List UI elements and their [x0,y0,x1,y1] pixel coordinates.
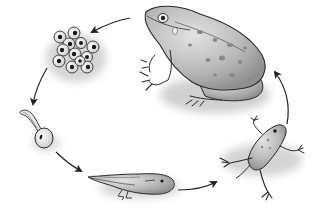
arrow-eggs-to-hatchling [33,68,47,104]
diagram-canvas [0,0,315,212]
adult-frog [140,6,270,113]
arrow-froglet-to-adult [275,72,288,124]
hatchling-tadpole [20,110,60,151]
tadpole-with-legs [88,174,180,200]
frog-eggs [46,27,106,82]
frog-life-cycle-diagram: clockwise [0,0,315,212]
arrow-tadpole-to-froglet [178,182,216,190]
froglet [220,116,304,200]
arrow-adult-to-eggs [92,18,130,32]
arrow-hatchling-to-tadpole [56,152,81,171]
